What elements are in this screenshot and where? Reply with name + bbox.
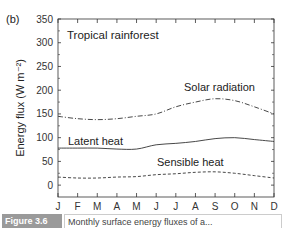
y-tick-label: 350	[36, 14, 53, 25]
y-tick-label: 150	[36, 108, 53, 119]
caption-text: Monthly surface energy fluxes of a...	[64, 214, 282, 228]
figure-caption: Figure 3.6 Monthly surface energy fluxes…	[0, 214, 285, 228]
x-tick-label: A	[192, 201, 199, 212]
x-axis: JFMAMJJASOND	[56, 19, 278, 212]
series-line-sensible-heat	[58, 172, 274, 178]
x-tick-label: M	[93, 201, 101, 212]
x-tick-label: A	[114, 201, 121, 212]
x-tick-label: S	[212, 201, 219, 212]
x-tick-label: M	[132, 201, 140, 212]
chart-title: Tropical rainforest	[67, 29, 159, 41]
x-tick-label: F	[75, 201, 81, 212]
y-tick-label: 250	[36, 61, 53, 72]
y-tick-label: 0	[47, 180, 53, 191]
y-tick-label: 100	[36, 132, 53, 143]
x-tick-label: O	[231, 201, 239, 212]
plot-frame	[58, 19, 274, 197]
y-tick-label: 200	[36, 85, 53, 96]
y-axis-label: Energy flux (W m⁻²)	[14, 59, 26, 157]
y-tick-label: 300	[36, 37, 53, 48]
x-tick-label: N	[251, 201, 258, 212]
x-tick-label: J	[56, 201, 61, 212]
x-tick-label: D	[270, 201, 277, 212]
series-line-solar-radiation	[58, 99, 274, 120]
x-tick-label: J	[173, 201, 178, 212]
y-tick-label: 50	[42, 156, 54, 167]
x-tick-label: J	[154, 201, 159, 212]
label-sensible-heat: Sensible heat	[157, 156, 224, 168]
caption-label: Figure 3.6	[2, 214, 62, 228]
panel-label: (b)	[6, 13, 19, 25]
label-solar-radiation: Solar radiation	[184, 81, 255, 93]
energy-flux-chart: (b) Energy flux (W m⁻²) 0501001502002503…	[0, 0, 285, 228]
label-latent-heat: Latent heat	[68, 135, 123, 147]
